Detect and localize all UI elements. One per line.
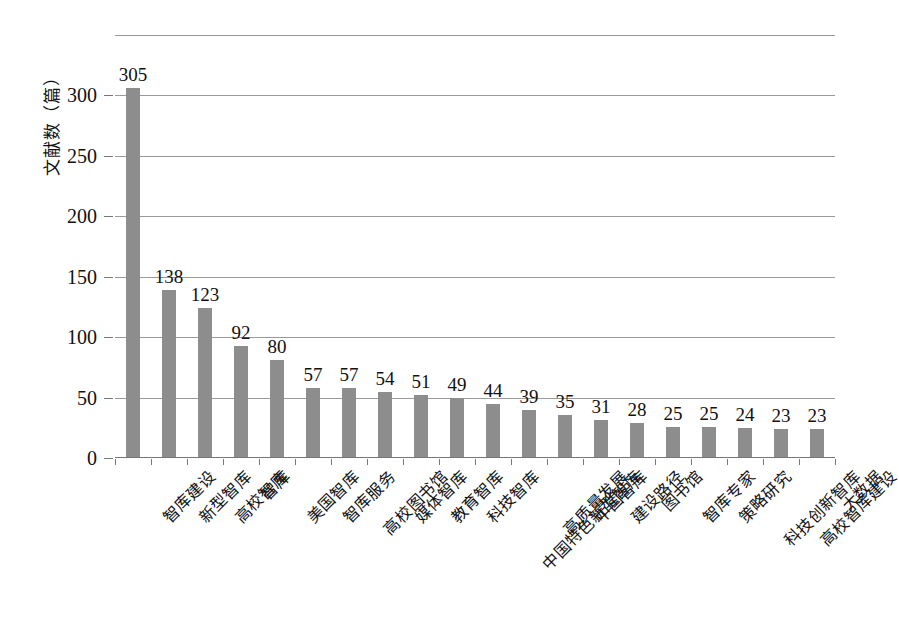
- x-axis-tick-mark: [727, 459, 728, 465]
- x-axis-tick-mark: [835, 459, 836, 465]
- x-axis-tick-mark: [367, 459, 368, 465]
- x-axis-tick-mark: [151, 459, 152, 465]
- x-axis-tick-mark: [583, 459, 584, 465]
- x-axis-tick-mark: [475, 459, 476, 465]
- x-axis-tick-mark: [691, 459, 692, 465]
- x-axis-tick-mark: [115, 459, 116, 465]
- x-axis-tick-mark: [619, 459, 620, 465]
- x-axis-tick-mark: [403, 459, 404, 465]
- x-axis-tick-mark: [763, 459, 764, 465]
- x-axis-tick-mark: [187, 459, 188, 465]
- x-axis-tick-mark: [331, 459, 332, 465]
- x-axis-tick-mark: [259, 459, 260, 465]
- x-axis-tick-mark: [295, 459, 296, 465]
- x-axis-tick-mark: [655, 459, 656, 465]
- x-axis-tick-mark: [511, 459, 512, 465]
- x-axis-tick-mark: [799, 459, 800, 465]
- x-axis-category-label: 智库: [259, 468, 294, 503]
- x-axis-tick-mark: [547, 459, 548, 465]
- x-axis-tick-mark: [223, 459, 224, 465]
- x-axis-tick-mark: [439, 459, 440, 465]
